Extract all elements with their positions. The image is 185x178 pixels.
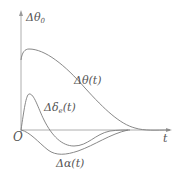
response-curves-diagram (0, 0, 185, 178)
x-axis-label: t (163, 133, 167, 144)
y-axis-label: Δθ0 (26, 12, 45, 25)
y-axis-label-main: Δθ (26, 11, 41, 24)
curve-label-delta-delta-e-main: Δδ (44, 101, 59, 114)
curve-delta-alpha (21, 130, 128, 154)
curve-label-delta-alpha: Δα(t) (56, 158, 84, 169)
origin-label: O (13, 131, 23, 143)
y-axis-arrow-icon (19, 10, 23, 16)
y-axis-label-sub: 0 (41, 17, 45, 25)
curve-label-delta-theta: Δθ(t) (74, 75, 102, 86)
curve-label-delta-delta-e-suffix: (t) (63, 101, 76, 114)
curve-label-delta-delta-e: Δδe(t) (44, 102, 76, 115)
